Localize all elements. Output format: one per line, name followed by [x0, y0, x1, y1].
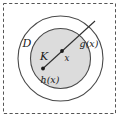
label-region-K: K	[39, 50, 49, 63]
nested-circles-diagram: D K x g(x) h(x)	[0, 0, 119, 117]
label-point-hx: h(x)	[41, 74, 60, 85]
label-point-gx: g(x)	[80, 38, 99, 49]
figure-container: D K x g(x) h(x)	[0, 0, 119, 117]
point-marker-x	[60, 49, 64, 53]
point-marker-hx	[41, 67, 45, 71]
label-region-D: D	[22, 37, 32, 50]
label-point-x: x	[65, 53, 70, 63]
